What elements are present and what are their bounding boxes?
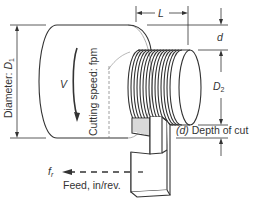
depth-symbol-label: d (217, 31, 224, 43)
depth-of-cut-label: (d) Depth of cut (176, 124, 248, 136)
feed-label: Feed, in/rev. (63, 179, 121, 191)
cutting-tool (131, 117, 170, 197)
d2-label: D2 (213, 80, 225, 93)
machined-section (128, 50, 201, 125)
velocity-label: V (60, 78, 68, 90)
feed-symbol-label: fr (48, 165, 54, 178)
cutting-speed-label: Cutting speed: fpm (87, 48, 99, 136)
length-label: L (158, 7, 164, 19)
rotation-arrow (73, 48, 80, 122)
turning-diagram: Diameter: D1 V Cutting speed: fpm L d D2… (0, 0, 264, 202)
feed-arrow (62, 169, 130, 175)
d1-dimension (10, 25, 46, 138)
diameter-label: Diameter: D1 (2, 58, 15, 118)
